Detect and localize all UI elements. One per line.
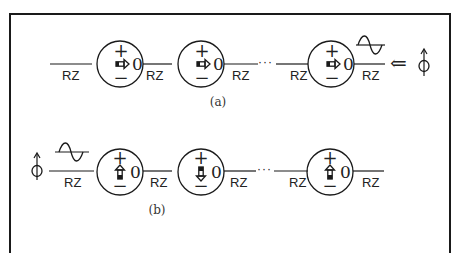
spin-node: + − 0 bbox=[97, 147, 143, 196]
phi-with-up-arrow-icon bbox=[419, 49, 429, 76]
rz-label: RZ bbox=[150, 175, 167, 190]
rz-label: RZ bbox=[230, 175, 247, 190]
ellipsis: ··· bbox=[258, 55, 273, 69]
node-value: 0 bbox=[211, 162, 222, 182]
phi-with-up-arrow-icon bbox=[32, 153, 42, 180]
rz-label: RZ bbox=[232, 68, 249, 83]
spin-node: + − 0 bbox=[307, 147, 353, 196]
rz-label: RZ bbox=[64, 175, 81, 190]
node-value: 0 bbox=[340, 162, 351, 182]
node-value: 0 bbox=[213, 54, 224, 74]
plus-sign: + bbox=[113, 40, 128, 61]
rz-label: RZ bbox=[146, 68, 163, 83]
spin-node: + − 0 bbox=[178, 147, 224, 196]
spin-node: + − 0 bbox=[178, 40, 224, 88]
plus-sign: + bbox=[194, 40, 209, 61]
ellipsis: ··· bbox=[257, 162, 272, 176]
caption-a: (a) bbox=[210, 95, 227, 109]
node-value: 0 bbox=[343, 54, 354, 74]
panel-a: RZ + − 0 RZ + − 0 RZ ··· RZ + − bbox=[50, 36, 429, 109]
caption-b: (b) bbox=[148, 203, 165, 217]
plus-sign: + bbox=[324, 40, 339, 61]
node-value: 0 bbox=[132, 54, 143, 74]
minus-sign: − bbox=[193, 175, 208, 196]
node-value: 0 bbox=[130, 162, 141, 182]
rz-label: RZ bbox=[289, 175, 306, 190]
minus-sign: − bbox=[324, 67, 339, 88]
rz-label: RZ bbox=[362, 175, 379, 190]
sine-pulse-icon bbox=[55, 143, 89, 161]
spin-node: + − 0 bbox=[97, 40, 143, 88]
plus-sign: + bbox=[193, 147, 208, 168]
sine-pulse-icon bbox=[356, 36, 385, 54]
minus-sign: − bbox=[194, 67, 209, 88]
rz-label: RZ bbox=[62, 68, 79, 83]
spin-node: + − 0 bbox=[308, 40, 354, 88]
minus-sign: − bbox=[113, 67, 128, 88]
rz-label: RZ bbox=[362, 68, 379, 83]
rz-label: RZ bbox=[290, 68, 307, 83]
double-arrow-left-icon: ⇐ bbox=[390, 51, 407, 75]
panel-b: RZ + − 0 RZ + − 0 RZ ··· RZ + − bbox=[32, 143, 384, 217]
